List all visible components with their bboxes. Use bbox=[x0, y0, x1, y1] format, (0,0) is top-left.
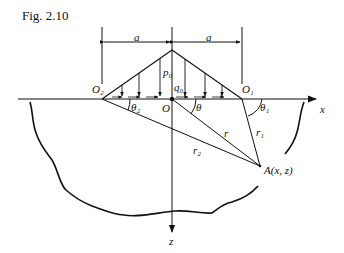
point-a bbox=[259, 165, 262, 168]
dim-label-right: a bbox=[206, 32, 212, 43]
label-p0: p₀ bbox=[163, 67, 172, 78]
dim-label-left: a bbox=[134, 32, 140, 43]
label-o2: O₂ bbox=[92, 84, 104, 95]
label-origin: O bbox=[162, 103, 170, 114]
ray-r bbox=[172, 99, 260, 166]
body-boundary bbox=[30, 102, 258, 216]
label-z-axis: z bbox=[169, 236, 173, 247]
label-r2: r₂ bbox=[193, 145, 201, 156]
ray-r2 bbox=[102, 99, 260, 166]
label-point-a: A(x, z) bbox=[264, 165, 293, 176]
label-r1: r₁ bbox=[256, 127, 264, 138]
label-theta2: θ₂ bbox=[131, 102, 140, 113]
label-o1: O₁ bbox=[242, 84, 254, 95]
origin-point bbox=[170, 97, 174, 101]
label-x-axis: x bbox=[320, 104, 325, 115]
label-theta1: θ₁ bbox=[260, 102, 269, 113]
diagram-canvas bbox=[0, 0, 344, 253]
label-q0: q₀ bbox=[174, 82, 183, 93]
label-r: r bbox=[224, 128, 228, 139]
label-theta: θ bbox=[196, 102, 201, 113]
